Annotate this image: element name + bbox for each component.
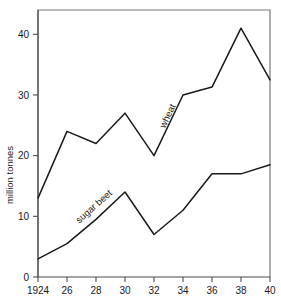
series-label-sugar-beet: sugar beet bbox=[73, 187, 114, 225]
series-line-wheat bbox=[38, 28, 270, 198]
x-tick-label: 38 bbox=[235, 285, 247, 296]
x-tick-label: 36 bbox=[206, 285, 218, 296]
series-line-sugar-beet bbox=[38, 165, 270, 259]
series-label-wheat: wheat bbox=[156, 102, 177, 131]
y-tick-label: 30 bbox=[18, 90, 30, 101]
y-axis-ticks: 010203040 bbox=[18, 29, 38, 283]
data-series-group bbox=[38, 28, 270, 259]
plot-frame-outline bbox=[38, 10, 270, 277]
y-tick-label: 40 bbox=[18, 29, 30, 40]
y-axis-title: million tonnes bbox=[4, 146, 15, 204]
x-tick-label: 26 bbox=[61, 285, 73, 296]
x-tick-label: 32 bbox=[148, 285, 160, 296]
chart-container: 010203040 19242628303234363840 million t… bbox=[0, 0, 281, 302]
x-tick-label: 40 bbox=[264, 285, 276, 296]
y-tick-label: 10 bbox=[18, 211, 30, 222]
x-axis-ticks: 19242628303234363840 bbox=[27, 277, 276, 296]
x-tick-label: 30 bbox=[119, 285, 131, 296]
x-tick-label: 34 bbox=[177, 285, 189, 296]
plot-frame bbox=[38, 10, 270, 277]
x-tick-label: 1924 bbox=[27, 285, 50, 296]
y-tick-label: 0 bbox=[23, 272, 29, 283]
line-chart: 010203040 19242628303234363840 million t… bbox=[0, 0, 281, 302]
x-tick-label: 28 bbox=[90, 285, 102, 296]
y-tick-label: 20 bbox=[18, 150, 30, 161]
